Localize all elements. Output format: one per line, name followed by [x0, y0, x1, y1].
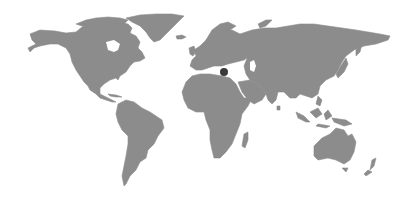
iceland — [176, 35, 186, 39]
continent-australia — [314, 128, 356, 164]
sri-lanka — [277, 106, 280, 110]
caribbean-islands — [108, 94, 122, 97]
madagascar — [242, 132, 248, 148]
tasmania — [342, 168, 348, 172]
location-marker[interactable] — [220, 68, 228, 76]
continent-north-america — [28, 21, 145, 102]
southeast-asia-islands — [296, 96, 352, 128]
continent-south-america — [116, 100, 164, 186]
world-map-svg — [0, 0, 415, 199]
new-zealand — [364, 158, 376, 176]
novaya-zemlya — [258, 20, 272, 28]
british-isles — [189, 46, 196, 56]
world-map — [0, 0, 415, 199]
